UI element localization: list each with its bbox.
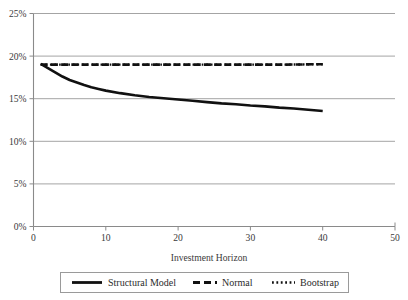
series-line-structural-model [41, 64, 323, 111]
line-chart: 0%5%10%15%20%25% 01020304050 Investment … [0, 0, 408, 300]
axes [34, 14, 396, 227]
y-tick-label: 25% [9, 8, 27, 19]
y-tick-label: 20% [9, 51, 27, 62]
y-tick-label: 5% [14, 178, 27, 189]
chart-container: 0%5%10%15%20%25% 01020304050 Investment … [0, 0, 408, 300]
legend-label-normal: Normal [222, 277, 253, 288]
chart-legend: Structural ModelNormalBootstrap [61, 273, 349, 293]
x-axis-title: Investment Horizon [171, 252, 248, 263]
x-tick-label: 50 [390, 232, 400, 243]
y-tick-label: 15% [9, 93, 27, 104]
y-axis-ticks: 0%5%10%15%20%25% [9, 8, 34, 232]
x-tick-label: 10 [101, 232, 111, 243]
x-axis-ticks: 01020304050 [31, 227, 400, 244]
data-series [41, 64, 323, 111]
legend-label-bootstrap: Bootstrap [300, 277, 339, 288]
legend-label-structural-model: Structural Model [108, 277, 176, 288]
y-tick-label: 0% [14, 221, 27, 232]
y-tick-label: 10% [9, 136, 27, 147]
gridlines [34, 14, 396, 184]
x-tick-label: 30 [246, 232, 256, 243]
x-tick-label: 40 [318, 232, 328, 243]
x-tick-label: 0 [31, 232, 36, 243]
x-tick-label: 20 [173, 232, 183, 243]
